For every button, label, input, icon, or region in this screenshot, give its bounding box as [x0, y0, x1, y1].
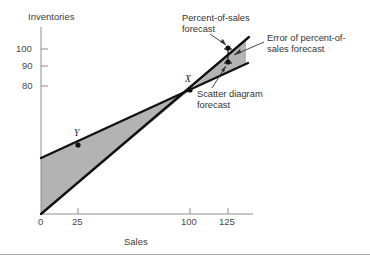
chart-figure: Inventories 100 90 80 0 25 100 125 Sales…	[0, 0, 370, 259]
y-tick-label-80: 80	[22, 80, 33, 91]
x-tick-label-0: 0	[38, 216, 43, 227]
y-tick-label-90: 90	[22, 60, 33, 71]
data-point-x	[187, 87, 192, 92]
annotation-error-line1: Error of percent-of-	[267, 33, 346, 44]
y-tick-label-100: 100	[16, 43, 32, 54]
annotation-percent-of-sales-line1: Percent-of-sales	[182, 13, 250, 24]
annotation-scatter-diagram-forecast: Scatter diagram forecast	[197, 89, 263, 110]
annotation-scatter-line1: Scatter diagram	[197, 89, 263, 100]
data-point-y	[75, 142, 80, 147]
x-tick-label-100: 100	[181, 216, 197, 227]
data-point-upper-125	[225, 45, 230, 50]
x-axis-title: Sales	[124, 236, 148, 247]
point-label-x: X	[185, 74, 191, 84]
annotation-percent-of-sales-line2: forecast	[182, 24, 250, 35]
point-label-y: Y	[74, 128, 79, 138]
data-point-lower-125	[225, 59, 230, 64]
annotation-scatter-line2: forecast	[197, 100, 263, 111]
annotation-error-of-percent-of-sales-forecast: Error of percent-of- sales forecast	[267, 33, 346, 54]
annotation-percent-of-sales-forecast: Percent-of-sales forecast	[182, 13, 250, 34]
annotation-error-line2: sales forecast	[267, 44, 346, 55]
y-axis-title: Inventories	[28, 11, 74, 22]
x-tick-label-125: 125	[219, 216, 235, 227]
x-tick-label-25: 25	[72, 216, 83, 227]
leader-percent-of-sales-arrowhead	[220, 39, 226, 45]
